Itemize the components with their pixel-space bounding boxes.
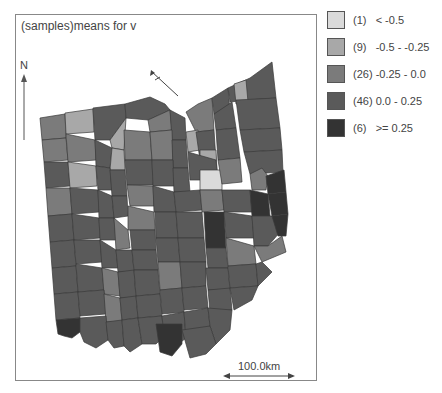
legend-item: (26) -0.25 - 0.0	[327, 65, 442, 87]
county	[158, 262, 182, 290]
county	[222, 190, 252, 212]
county	[268, 192, 288, 216]
county	[204, 212, 226, 248]
legend-label: (26) -0.25 - 0.0	[353, 68, 426, 80]
county	[66, 134, 96, 162]
legend-item: (9) -0.5 - -0.25	[327, 38, 442, 60]
islands-pointer-icon	[150, 70, 178, 96]
county	[116, 250, 134, 272]
county	[156, 324, 182, 356]
legend-label: (46) 0.0 - 0.25	[353, 95, 422, 107]
county	[182, 326, 216, 358]
county	[153, 186, 176, 212]
county	[156, 238, 180, 262]
legend-item: (46) 0.0 - 0.25	[327, 92, 442, 114]
county	[106, 320, 124, 348]
county	[96, 166, 112, 190]
county	[230, 286, 258, 310]
county	[65, 109, 94, 134]
county	[218, 158, 242, 184]
county	[95, 140, 112, 168]
county	[42, 138, 68, 162]
county	[72, 214, 100, 240]
county	[180, 262, 206, 288]
county	[236, 98, 280, 130]
county	[172, 140, 188, 168]
county	[152, 160, 174, 186]
legend-swatch	[327, 38, 345, 56]
county	[130, 230, 156, 250]
county	[128, 206, 155, 230]
county	[52, 266, 78, 294]
north-arrow-icon	[21, 74, 27, 140]
legend-swatch	[327, 65, 345, 83]
county	[150, 130, 173, 160]
county	[114, 218, 130, 250]
legend-label: (1) < -0.5	[353, 14, 404, 26]
county	[250, 190, 270, 216]
county	[70, 188, 99, 214]
legend-swatch	[327, 92, 345, 110]
legend-swatch	[327, 119, 345, 137]
county	[186, 98, 214, 132]
legend-item: (6) >= 0.25	[327, 119, 442, 141]
county	[112, 196, 128, 218]
county	[56, 318, 80, 338]
county	[46, 188, 72, 216]
scale-bar	[223, 373, 295, 379]
scale-bar-label: 100.0km	[238, 360, 280, 372]
county	[200, 170, 222, 190]
legend-swatch	[327, 11, 345, 29]
county	[54, 292, 80, 320]
county	[124, 130, 152, 160]
county	[206, 268, 230, 290]
county	[68, 162, 97, 188]
county	[136, 294, 162, 318]
county	[132, 250, 158, 270]
county	[134, 270, 160, 296]
county	[160, 288, 184, 314]
county	[40, 114, 66, 140]
county	[178, 238, 206, 262]
county	[155, 212, 178, 238]
county	[118, 270, 136, 298]
county	[78, 290, 106, 316]
county	[127, 185, 154, 206]
county	[173, 168, 190, 192]
legend-label: (9) -0.5 - -0.25	[353, 41, 429, 53]
county	[110, 148, 125, 170]
county	[256, 262, 272, 286]
county	[266, 170, 286, 194]
county	[224, 212, 254, 238]
county	[44, 162, 70, 188]
county	[182, 286, 208, 310]
county	[120, 296, 138, 320]
county	[216, 128, 240, 160]
county	[206, 248, 228, 268]
county	[240, 128, 282, 152]
county	[125, 160, 153, 185]
legend-item: (1) < -0.5	[327, 11, 442, 33]
county	[80, 316, 108, 348]
legend-label: (6) >= 0.25	[353, 122, 413, 134]
county	[99, 218, 116, 240]
county	[110, 170, 127, 196]
county	[228, 264, 258, 288]
county	[200, 190, 224, 212]
county	[104, 294, 122, 322]
county	[50, 240, 76, 268]
county	[226, 238, 256, 266]
county	[48, 214, 74, 242]
county	[74, 240, 102, 264]
county	[102, 268, 120, 296]
county	[76, 264, 104, 292]
county	[176, 212, 204, 238]
county-layer	[40, 62, 288, 358]
county	[174, 190, 202, 212]
